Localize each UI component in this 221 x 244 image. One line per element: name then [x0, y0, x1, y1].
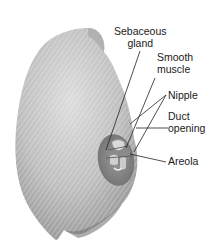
label-line: Sebaceous	[114, 25, 167, 37]
breast-body	[15, 28, 137, 240]
label-line: Smooth	[157, 51, 193, 63]
label-line: Areola	[168, 155, 198, 167]
label-line: opening	[168, 122, 205, 134]
leader-nipple	[134, 95, 166, 152]
label-line: Duct	[168, 110, 205, 122]
label-sebaceous-gland: Sebaceous gland	[114, 25, 167, 49]
label-line: Nipple	[168, 89, 198, 101]
label-line: gland	[114, 37, 167, 49]
breast-anatomy-figure: Sebaceous gland Smooth muscle Nipple Duc…	[0, 0, 221, 244]
label-areola: Areola	[168, 155, 198, 167]
label-smooth-muscle: Smooth muscle	[157, 51, 193, 75]
leader-smooth-muscle	[126, 78, 155, 148]
label-duct-opening: Duct opening	[168, 110, 205, 134]
label-line: muscle	[157, 63, 193, 75]
label-nipple: Nipple	[168, 89, 198, 101]
